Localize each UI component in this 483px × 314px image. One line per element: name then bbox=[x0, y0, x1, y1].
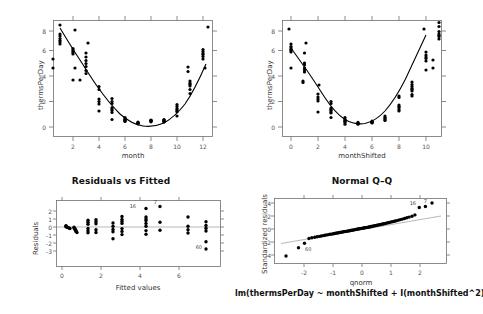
panel1-ytick-6: 6 bbox=[36, 47, 46, 54]
panel3-data-points bbox=[64, 205, 207, 251]
panel2-ytick-4: 4 bbox=[265, 73, 275, 80]
panel4-xtick-neg2: -2 bbox=[297, 269, 311, 276]
panel2-xtick-6: 6 bbox=[365, 143, 379, 150]
panel3-ytick-2: 2 bbox=[40, 208, 52, 215]
panel3-x-axis-label: Fitted values bbox=[98, 284, 178, 292]
panel1-xtick-4: 4 bbox=[92, 143, 106, 150]
panel2-data-points bbox=[287, 21, 440, 126]
panel1-data-points bbox=[51, 23, 209, 125]
panel4-xtick-1: 1 bbox=[384, 269, 398, 276]
panel3-ytick-0: 0 bbox=[40, 224, 52, 231]
panel2-ytick-6: 6 bbox=[265, 47, 275, 54]
panel2-ytick-2: 2 bbox=[265, 98, 275, 105]
panel-scatter-month: thermsPerDay bbox=[0, 0, 242, 160]
panel3-xtick-6: 6 bbox=[172, 272, 186, 279]
panel2-ytick-8: 8 bbox=[265, 28, 275, 35]
panel4-title: Normal Q–Q bbox=[241, 176, 483, 186]
panel3-xtick-2: 2 bbox=[94, 272, 108, 279]
panel2-xtick-10: 10 bbox=[419, 143, 433, 150]
panel3-xtick-4: 4 bbox=[133, 272, 147, 279]
panel4-x-axis-label: qnorm bbox=[321, 279, 401, 287]
panel3-ytick-1: 1 bbox=[40, 216, 52, 223]
panel2-xtick-4: 4 bbox=[338, 143, 352, 150]
panel4-outlier-label-60: 60 bbox=[305, 246, 311, 252]
panel4-outlier-label-7: 7 bbox=[424, 198, 427, 204]
panel2-x-axis-label: monthShifted bbox=[322, 152, 402, 160]
panel1-ytick-0: 0 bbox=[36, 124, 46, 131]
panel1-xtick-12: 12 bbox=[196, 143, 210, 150]
panel1-xtick-2: 2 bbox=[66, 143, 80, 150]
figure-model-caption: lm(thermsPerDay ~ monthShifted + I(month… bbox=[235, 289, 483, 298]
panel3-title: Residuals vs Fitted bbox=[0, 176, 242, 186]
panel4-xtick-2: 2 bbox=[413, 269, 427, 276]
panel3-xtick-0: 0 bbox=[55, 272, 69, 279]
panel1-xtick-10: 10 bbox=[170, 143, 184, 150]
panel4-outlier-label-16: 16 bbox=[410, 200, 416, 206]
panel-residuals-vs-fitted: Residuals vs Fitted Residuals bbox=[0, 160, 242, 314]
panel3-outlier-label-16: 16 bbox=[130, 203, 136, 209]
panel3-outlier-label-60: 60 bbox=[196, 244, 202, 250]
panel2-ytick-0: 0 bbox=[265, 124, 275, 131]
panel3-ytick-neg1: -1 bbox=[38, 232, 52, 239]
panel4-ytick-neg2: -2 bbox=[257, 239, 271, 246]
panel3-ytick-neg3: -3 bbox=[38, 248, 52, 255]
panel4-ytick-0: 0 bbox=[259, 226, 271, 233]
panel4-xtick-neg1: -1 bbox=[326, 269, 340, 276]
panel2-plot-area bbox=[241, 0, 483, 160]
panel1-ytick-2: 2 bbox=[36, 98, 46, 105]
panel1-x-axis-label: month bbox=[93, 152, 173, 160]
panel4-ytick-4: 4 bbox=[259, 200, 271, 207]
panel4-ytick-neg4: -4 bbox=[257, 252, 271, 259]
panel4-xtick-0: 0 bbox=[355, 269, 369, 276]
panel3-ytick-neg2: -2 bbox=[38, 240, 52, 247]
panel-scatter-month-shifted: thermsPerDay bbox=[241, 0, 483, 160]
panel1-ytick-8: 8 bbox=[36, 28, 46, 35]
panel2-xtick-2: 2 bbox=[311, 143, 325, 150]
panel2-xtick-8: 8 bbox=[392, 143, 406, 150]
panel1-xtick-6: 6 bbox=[118, 143, 132, 150]
panel4-ytick-2: 2 bbox=[259, 213, 271, 220]
panel3-outlier-label-7: 7 bbox=[154, 199, 157, 205]
panel1-xtick-8: 8 bbox=[144, 143, 158, 150]
panel2-xtick-0: 0 bbox=[284, 143, 298, 150]
panel1-ytick-4: 4 bbox=[36, 73, 46, 80]
